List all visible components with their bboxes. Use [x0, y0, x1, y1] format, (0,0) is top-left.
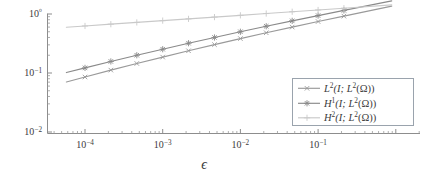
- data-point-marker-star: [263, 23, 269, 29]
- legend[interactable]: L2(I; L2(Ω))H1(I; L2(Ω))H2(I; L2(Ω)): [293, 79, 414, 126]
- data-point-marker-star: [82, 65, 88, 71]
- data-point-marker-star: [185, 40, 191, 46]
- data-point-marker-star: [134, 52, 140, 58]
- log-log-convergence-chart: 10−410−310−210−1 10−210−110⁰ ϵ L2(I; L2(…: [0, 0, 425, 181]
- data-point-marker-star: [289, 18, 295, 24]
- legend-label: H2(I; L2(Ω)): [323, 110, 377, 124]
- data-point-marker-star: [315, 12, 321, 18]
- data-point-marker-star: [108, 58, 114, 64]
- data-point-marker-star: [304, 100, 310, 106]
- data-point-marker-star: [211, 34, 217, 40]
- data-point-marker-star: [237, 29, 243, 35]
- data-point-marker-star: [160, 46, 166, 52]
- legend-label: H1(I; L2(Ω)): [323, 96, 377, 110]
